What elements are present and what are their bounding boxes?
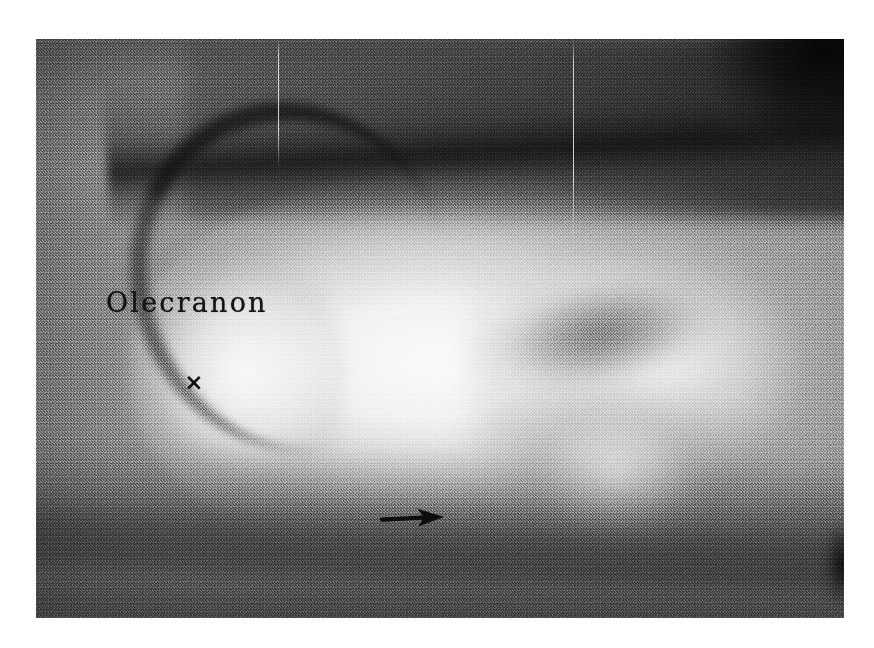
olecranon-bone-body bbox=[131, 169, 844, 569]
right-edge-dark-notch bbox=[816, 519, 844, 609]
emulsion-scratch-line bbox=[573, 39, 574, 239]
superior-cortical-band bbox=[103, 39, 844, 229]
condyle-bright-blob bbox=[511, 394, 721, 574]
coronoid-shadow bbox=[454, 346, 819, 591]
trochlear-notch-shadow bbox=[457, 249, 745, 418]
cross-marker-icon: × bbox=[182, 370, 206, 394]
paper-margin-right bbox=[844, 0, 874, 648]
paper-margin-top bbox=[0, 0, 874, 39]
paper-margin-left bbox=[0, 0, 36, 648]
radiograph-figure: Olecranon × bbox=[0, 0, 874, 648]
emulsion-scratch-line bbox=[278, 39, 279, 169]
paper-margin-bottom bbox=[0, 618, 874, 648]
soft-tissue-upper-shadow bbox=[186, 39, 844, 219]
olecranon-cortical-arc bbox=[90, 64, 490, 488]
arrow-marker-icon bbox=[380, 501, 448, 535]
radiograph-plate: Olecranon × bbox=[36, 39, 844, 618]
olecranon-label: Olecranon bbox=[106, 287, 268, 318]
ulna-shaft-bright-region bbox=[466, 209, 844, 529]
top-right-dark-corner bbox=[654, 39, 844, 179]
soft-tissue-left-shadow bbox=[36, 39, 176, 618]
